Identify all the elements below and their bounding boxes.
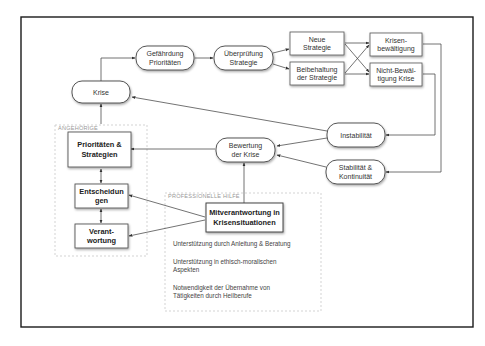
node-entscheidungen: Entscheidun gen bbox=[75, 184, 128, 208]
node-krisenbewaeltigung-line1: Krisen- bbox=[385, 37, 408, 44]
node-neue-strategie: Neue Strategie bbox=[290, 32, 344, 55]
node-krise: Krise bbox=[72, 81, 130, 103]
node-krisenbewaeltigung-line2: bewältigung bbox=[377, 45, 414, 53]
node-krisenbewaeltigung: Krisen- bewältigung bbox=[370, 33, 422, 56]
node-bewertung-krise: Bewertung der Krise bbox=[216, 138, 275, 162]
node-verantwortung: Verant- wortung bbox=[75, 224, 128, 248]
group-angehoerige-label: ANGEHÖRIGE bbox=[58, 125, 98, 131]
note-ethisch-line2: Aspekten bbox=[173, 266, 200, 274]
node-stabilitaet: Stabilität & Kontinuität bbox=[326, 160, 385, 184]
node-neue-line2: Strategie bbox=[303, 44, 331, 52]
node-instabilitaet: Instabilität bbox=[327, 123, 385, 147]
node-gefaehrdung-prioritaeten: Gefährdung Prioritäten bbox=[136, 46, 194, 70]
node-entscheidungen-line2: gen bbox=[95, 196, 109, 205]
node-prioritaeten-strategien: Prioritäten & Strategien bbox=[68, 132, 131, 167]
node-bewertung-line2: der Krise bbox=[231, 151, 259, 158]
node-beibehaltung-line2: der Strategie bbox=[297, 74, 337, 82]
node-prioritaeten-line1: Prioritäten & bbox=[77, 140, 122, 149]
node-stabilitaet-line2: Kontinuität bbox=[339, 173, 372, 180]
node-instabilitaet-label: Instabilität bbox=[340, 132, 372, 139]
node-ueberpruefung-line1: Überprüfung bbox=[224, 50, 263, 58]
note-heilberufe-line2: Tätigkeiten durch Heilberufe bbox=[173, 292, 252, 300]
node-gefaehrdung-line2: Prioritäten bbox=[149, 59, 181, 66]
node-verantwortung-line2: wortung bbox=[86, 236, 117, 245]
node-nichtbewaeltigung-line1: Nicht-Bewäl- bbox=[376, 67, 416, 74]
node-mitverantwortung-line1: Mitverantwortung in bbox=[209, 208, 280, 217]
note-heilberufe-line1: Notwendigkeit der Übernahme von bbox=[173, 284, 270, 292]
node-mitverantwortung: Mitverantwortung in Krisensituationen bbox=[206, 203, 283, 232]
node-bewertung-line1: Bewertung bbox=[229, 142, 263, 150]
group-professionelle-hilfe-label: PROFESSIONELLE HILFE bbox=[168, 193, 240, 199]
note-ethisch-line1: Unterstützung in ethisch-moralischen bbox=[173, 258, 277, 266]
node-nichtbewaeltigung-line2: tigung Krise bbox=[378, 75, 415, 83]
node-krise-label: Krise bbox=[93, 89, 109, 96]
node-beibehaltung-line1: Beibehaltung bbox=[297, 66, 338, 74]
node-gefaehrdung-line1: Gefährdung bbox=[147, 50, 184, 58]
note-anleitung: Unterstützung durch Anleitung & Beratung bbox=[173, 240, 291, 248]
node-nicht-bewaeltigung: Nicht-Bewäl- tigung Krise bbox=[370, 63, 422, 86]
node-ueberpruefung-strategie: Überprüfung Strategie bbox=[214, 46, 273, 70]
node-entscheidungen-line1: Entscheidun bbox=[79, 187, 124, 196]
node-neue-line1: Neue bbox=[309, 36, 326, 43]
node-verantwortung-line1: Verant- bbox=[89, 227, 115, 236]
diagram-canvas: ANGEHÖRIGE PROFESSIONELLE HILFE bbox=[0, 0, 485, 346]
node-beibehaltung-strategie: Beibehaltung der Strategie bbox=[290, 62, 344, 85]
node-ueberpruefung-line2: Strategie bbox=[229, 59, 257, 67]
node-stabilitaet-line1: Stabilität & bbox=[339, 164, 373, 171]
node-prioritaeten-line2: Strategien bbox=[81, 150, 118, 159]
node-mitverantwortung-line2: Krisensituationen bbox=[213, 218, 276, 227]
